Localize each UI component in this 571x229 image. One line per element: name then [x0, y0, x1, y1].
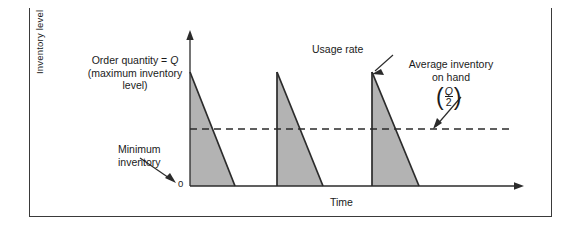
- average-inventory-line1: Average inventory: [409, 58, 493, 70]
- order-quantity-line3: level): [122, 79, 147, 91]
- usage-rate-leader: [375, 55, 393, 71]
- x-axis-title: Time: [330, 196, 353, 209]
- average-inventory-arrowhead: [433, 118, 442, 129]
- order-quantity-line2: (maximum inventory: [88, 67, 183, 79]
- order-quantity-line1-prefix: Order quantity =: [92, 54, 171, 66]
- inventory-sawtooth-figure: Inventory level Time Order quantity = Q …: [0, 0, 571, 229]
- fraction-numerator: Q: [445, 86, 453, 96]
- minimum-inventory-arrowhead: [165, 173, 176, 183]
- minimum-inventory-label: Minimum inventory: [118, 143, 180, 168]
- order-quantity-symbol: Q: [170, 54, 178, 66]
- average-inventory-line2: on hand: [432, 71, 470, 83]
- usage-rate-arrowhead: [372, 69, 384, 75]
- y-axis-arrowhead: [186, 30, 193, 40]
- usage-rate-label: Usage rate: [312, 43, 363, 56]
- fraction-q-over-2: Q 2: [445, 86, 453, 107]
- fraction-denominator: 2: [445, 96, 453, 107]
- average-inventory-label: Average inventory on hand: [398, 58, 504, 83]
- y-axis-title: Inventory level: [34, 10, 47, 74]
- x-axis-arrowhead: [514, 182, 524, 189]
- origin-zero-label: 0: [178, 178, 183, 191]
- fraction-paren-open: (: [436, 89, 444, 105]
- order-quantity-label: Order quantity = Q (maximum inventory le…: [74, 54, 196, 92]
- fraction-paren-close: ): [454, 89, 462, 105]
- inventory-plot: [0, 0, 571, 229]
- average-inventory-fraction: ( Q 2 ): [436, 86, 462, 107]
